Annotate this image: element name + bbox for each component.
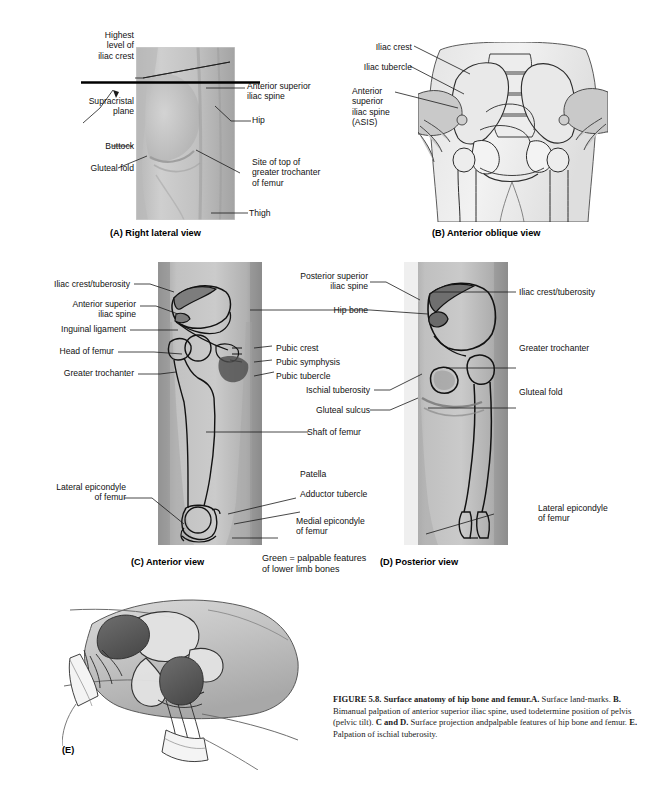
figure-a-text: Surface land- xyxy=(539,694,587,704)
label-asis-c: Anterior superior iliac spine xyxy=(28,299,136,320)
label-ischial-tuberosity-d: Ischial tuberosity xyxy=(278,385,370,395)
figure-e-bold: E. xyxy=(629,717,637,727)
label-lateral-epicondyle-d: Lateral epicondyle of femur xyxy=(538,503,644,524)
figure-line2-text: Bimanual palpation of anterior superior … xyxy=(333,706,535,716)
label-gluteal-sulcus-d: Gluteal sulcus xyxy=(288,405,370,415)
label-supracristal-plane: Supracristal plane xyxy=(50,96,134,117)
label-iliac-crest-tuberosity-d: Iliac crest/tuberosity xyxy=(519,287,643,297)
figure-line2-pre: marks. xyxy=(588,694,613,704)
label-hip: Hip xyxy=(252,115,312,125)
label-anterior-superior-iliac-spine-a: Anterior superior iliac spine xyxy=(247,81,357,102)
panel-b-caption: (B) Anterior oblique view xyxy=(432,228,602,238)
figure-cd-bold: C and D. xyxy=(376,717,409,727)
label-iliac-crest-b: Iliac crest xyxy=(334,42,412,52)
label-asis-b: Anterior superior iliac spine (ASIS) xyxy=(352,86,434,128)
figure-number: FIGURE 5.8. xyxy=(333,694,381,704)
panel-e-caption: (E) xyxy=(62,745,74,755)
label-greater-trochanter-d: Greater trochanter xyxy=(519,343,631,353)
label-gluteal-fold: Gluteal fold xyxy=(46,163,134,173)
label-gluteal-fold-d: Gluteal fold xyxy=(519,387,609,397)
figure-line3-text: Surface projection and xyxy=(408,717,488,727)
panel-a-caption: (A) Right lateral view xyxy=(110,228,262,238)
label-hip-bone-d: Hip bone xyxy=(296,305,368,315)
figure-5-8: Highest level of iliac crest Supracrista… xyxy=(0,0,667,785)
label-iliac-crest-tuberosity-c: Iliac crest/tuberosity xyxy=(24,279,130,289)
panel-e-image xyxy=(62,588,312,770)
label-greater-trochanter-c: Greater trochanter xyxy=(26,368,134,378)
label-inguinal-ligament: Inguinal ligament xyxy=(28,324,126,334)
label-buttock: Buttock xyxy=(52,141,134,151)
label-highest-level-iliac-crest: Highest level of iliac crest xyxy=(52,30,134,61)
figure-b-bold: B. xyxy=(613,694,621,704)
figure-title: Surface anatomy of hip bone and femur. xyxy=(384,694,531,704)
label-iliac-tubercle-b: Iliac tubercle xyxy=(326,62,412,72)
label-psis-d: Posterior superior iliac spine xyxy=(280,271,368,292)
label-lateral-epicondyle-c: Lateral epicondyle of femur xyxy=(26,482,126,503)
label-thigh: Thigh xyxy=(249,208,309,218)
label-site-of-top-of-greater-trochanter: Site of top of greater trochanter of fem… xyxy=(252,157,362,188)
figure-caption: FIGURE 5.8. Surface anatomy of hip bone … xyxy=(333,694,653,740)
figure-line4-text: Palpation of ischial tuberosity. xyxy=(333,729,437,739)
figure-line4-pre: palpable features of hip bone and femur. xyxy=(488,717,629,727)
panel-d-caption: (D) Posterior view xyxy=(380,557,538,567)
label-head-of-femur: Head of femur xyxy=(28,346,114,356)
